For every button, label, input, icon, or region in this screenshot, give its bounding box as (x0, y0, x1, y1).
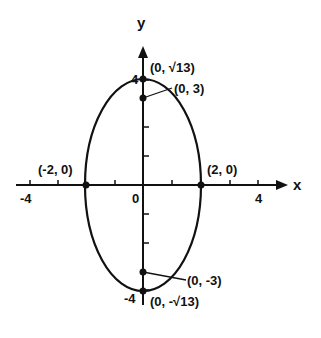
y-axis-label: y (137, 14, 146, 31)
label-covertex-left: (-2, 0) (38, 162, 73, 177)
x-axis-arrow-icon (276, 180, 288, 190)
x-tick-pos4: 4 (255, 191, 263, 206)
point-vertex-top (140, 76, 147, 83)
leader-focus-top (143, 88, 172, 98)
point-vertex-bottom (140, 288, 147, 295)
x-tick-neg4: -4 (20, 191, 32, 206)
y-axis-arrow-icon (138, 46, 148, 58)
label-focus-top: (0, 3) (174, 81, 204, 96)
y-tick-neg4: -4 (124, 291, 136, 306)
y-tick-pos4: 4 (131, 72, 139, 87)
label-vertex-top: (0, √13) (150, 60, 195, 75)
label-focus-bottom: (0, -3) (187, 273, 222, 288)
origin-label: 0 (132, 191, 139, 206)
ellipse-diagram: y x 0 -4 4 4 -4 (0, √13) (0, 3) (-2, 0) … (0, 0, 321, 338)
leader-focus-bottom (143, 272, 186, 280)
x-axis-label: x (293, 176, 302, 193)
label-vertex-bottom: (0, -√13) (150, 294, 199, 309)
point-covertex-right (198, 182, 205, 189)
label-covertex-right: (2, 0) (207, 162, 237, 177)
point-covertex-left (83, 182, 90, 189)
